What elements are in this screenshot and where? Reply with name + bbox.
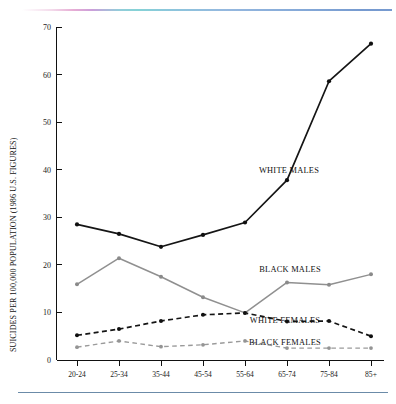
- y-tick-label: 10: [43, 308, 51, 317]
- data-point: [117, 327, 121, 331]
- data-point: [327, 319, 331, 323]
- data-point: [159, 319, 163, 323]
- series-points: [75, 42, 373, 350]
- data-point: [285, 280, 289, 284]
- series-annotation-black-females: BLACK FEMALES: [249, 338, 321, 347]
- x-tick-label: 85+: [365, 370, 377, 379]
- x-tick-label: 55-64: [236, 370, 254, 379]
- data-point: [117, 339, 121, 343]
- data-point: [243, 311, 247, 315]
- series-line-black-males: [77, 258, 371, 313]
- data-point: [159, 345, 163, 349]
- y-tick-label: 20: [43, 261, 51, 270]
- suicide-rate-line-chart: SUICIDES PER 100,000 POPULATION (1986 U.…: [0, 0, 396, 404]
- y-tick-label: 30: [43, 213, 51, 222]
- data-point: [327, 283, 331, 287]
- y-tick-label: 40: [43, 166, 51, 175]
- y-axis-ticks: 010203040506070: [43, 23, 62, 365]
- data-point: [201, 295, 205, 299]
- data-point: [369, 272, 373, 276]
- data-point: [201, 233, 205, 237]
- bottom-rule: [18, 392, 388, 393]
- x-tick-label: 20-24: [68, 370, 86, 379]
- series-annotation-white-males: WHITE MALES: [259, 166, 319, 175]
- series-annotation-black-males: BLACK MALES: [259, 265, 321, 274]
- series-annotation-white-females: WHITE FEMALES: [250, 316, 321, 325]
- x-tick-label: 25-34: [110, 370, 128, 379]
- data-point: [75, 345, 79, 349]
- data-point: [285, 178, 289, 182]
- data-point: [75, 282, 79, 286]
- data-point: [327, 79, 331, 83]
- x-tick-label: 35-44: [152, 370, 170, 379]
- series-annotations: WHITE MALESBLACK MALESWHITE FEMALESBLACK…: [249, 166, 321, 347]
- y-tick-label: 60: [43, 71, 51, 80]
- data-point: [159, 245, 163, 249]
- x-tick-label: 75-84: [320, 370, 338, 379]
- series-line-black-females: [77, 341, 371, 348]
- data-point: [243, 220, 247, 224]
- chart-plot-area: SUICIDES PER 100,000 POPULATION (1986 U.…: [0, 0, 396, 404]
- data-point: [201, 313, 205, 317]
- figure: SUICIDES PER 100,000 POPULATION (1986 U.…: [0, 0, 396, 404]
- data-point: [369, 346, 373, 350]
- data-point: [75, 222, 79, 226]
- data-point: [201, 343, 205, 347]
- data-point: [243, 339, 247, 343]
- data-point: [369, 42, 373, 46]
- data-point: [75, 333, 79, 337]
- series-line-white-females: [77, 313, 371, 336]
- y-axis-title: SUICIDES PER 100,000 POPULATION (1986 U.…: [9, 137, 18, 352]
- x-tick-label: 65-74: [278, 370, 296, 379]
- y-tick-label: 50: [43, 118, 51, 127]
- y-tick-label: 70: [43, 23, 51, 32]
- data-point: [369, 334, 373, 338]
- data-point: [159, 275, 163, 279]
- series-line-white-males: [77, 44, 371, 247]
- data-point: [117, 232, 121, 236]
- data-point: [117, 256, 121, 260]
- x-tick-label: 45-54: [194, 370, 212, 379]
- x-axis-ticks: 20-2425-3435-4445-5455-6465-7475-8485+: [68, 361, 377, 380]
- series-lines: [77, 44, 371, 348]
- y-tick-label: 0: [47, 356, 51, 365]
- data-point: [327, 346, 331, 350]
